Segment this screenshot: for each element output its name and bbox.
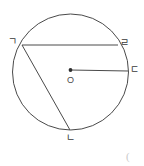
point-label-gieuk: ㄱ	[8, 37, 17, 47]
point-label-nieun: ㄴ	[66, 133, 75, 143]
center-point-dot	[69, 68, 73, 72]
geometry-figure: ㄱ ㄴ ㄷ ㄹ O (	[0, 0, 144, 166]
circle-outline	[13, 14, 129, 130]
chord-gieuk-nieun	[22, 45, 70, 130]
radius-o-digeut	[71, 70, 129, 71]
center-label-o: O	[67, 76, 74, 85]
point-label-digeut: ㄷ	[130, 65, 139, 75]
corner-mark: (	[126, 151, 130, 162]
point-label-rieul: ㄹ	[120, 38, 129, 48]
